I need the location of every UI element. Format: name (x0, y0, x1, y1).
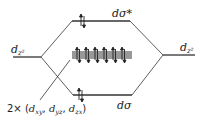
label-pointer-line (40, 60, 70, 100)
nonbonding-orbitals-label: 2× (dxy, dyz, dzx) (7, 103, 86, 116)
d-sigma-label: dσ (117, 99, 132, 112)
left-dz2-label: dz² (11, 43, 25, 57)
mo-diagram: dz² dz² dσ* dσ 2× (dxy, dyz, dzx) (0, 0, 201, 125)
d-sigma-star-label: dσ* (112, 7, 133, 20)
correlation-lines (40, 21, 163, 100)
right-dz2-label: dz² (180, 41, 194, 55)
nonbonding-electron-pairs-icon (76, 47, 127, 63)
nonbonding-levels (72, 52, 132, 58)
